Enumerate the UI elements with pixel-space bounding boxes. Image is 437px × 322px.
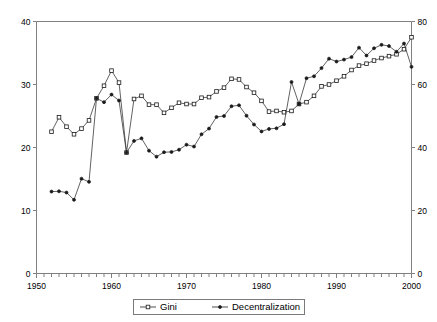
data-point (207, 95, 211, 99)
series-group (50, 35, 414, 201)
data-point (65, 191, 68, 194)
y-tick-label-left: 30 (21, 80, 31, 90)
x-tick-label: 1980 (252, 281, 271, 291)
data-point (73, 198, 76, 201)
data-point (342, 75, 346, 79)
data-point (200, 133, 203, 136)
data-point (290, 80, 293, 83)
data-point (282, 110, 286, 114)
data-point (222, 86, 226, 90)
data-point (230, 77, 234, 81)
data-point (403, 42, 406, 45)
data-point (410, 65, 413, 68)
x-tick-label: 1990 (327, 281, 346, 291)
data-point (80, 177, 83, 180)
data-point (350, 56, 353, 59)
data-point (260, 130, 263, 133)
data-point (410, 35, 414, 39)
legend-marker-filled-diamond (219, 306, 222, 309)
data-point (177, 101, 181, 105)
series-gini (50, 35, 414, 154)
data-point (133, 139, 136, 142)
data-point (275, 127, 278, 130)
data-point (148, 149, 151, 152)
data-point (230, 105, 233, 108)
data-point (50, 190, 53, 193)
data-point (387, 54, 391, 58)
data-point (57, 115, 61, 119)
data-point (215, 115, 218, 118)
data-point (372, 59, 376, 63)
data-point (125, 151, 128, 154)
data-point (208, 127, 211, 130)
y-tick-label-left: 40 (21, 17, 31, 27)
data-point (178, 148, 181, 151)
chart-legend[interactable]: GiniDecentralization (134, 300, 305, 315)
data-point (305, 77, 308, 80)
y-tick-label-right: 60 (418, 80, 428, 90)
data-point (72, 132, 76, 136)
data-point (335, 79, 339, 83)
data-point (163, 151, 166, 154)
chart-container: 0102030400204060801950196019701980199020… (0, 0, 437, 322)
data-point (95, 97, 98, 100)
data-point (87, 119, 91, 123)
data-point (290, 109, 294, 113)
x-tick-label: 1950 (27, 281, 46, 291)
data-point (147, 103, 151, 107)
data-point (140, 137, 143, 140)
legend-marker-open-square (146, 305, 150, 309)
data-point (185, 102, 189, 106)
data-point (268, 127, 271, 130)
data-point (343, 58, 346, 61)
y-tick-label-left: 0 (26, 269, 31, 279)
series-line (52, 37, 412, 152)
data-point (298, 103, 301, 106)
data-point (358, 46, 361, 49)
data-point (365, 62, 369, 66)
y-tick-label-left: 10 (21, 206, 31, 216)
data-point (267, 110, 271, 114)
x-tick-label: 1970 (177, 281, 196, 291)
data-point (395, 50, 398, 53)
data-point (162, 111, 166, 115)
data-point (65, 125, 69, 129)
data-point (117, 81, 121, 85)
data-point (155, 155, 158, 158)
data-point (200, 96, 204, 100)
axis-tick-labels: 0102030400204060801950196019701980199020… (21, 17, 427, 291)
data-point (380, 56, 384, 60)
data-point (192, 102, 196, 106)
y-tick-label-right: 80 (418, 17, 428, 27)
data-point (275, 109, 279, 113)
data-point (327, 83, 331, 87)
data-point (252, 91, 256, 95)
data-point (155, 103, 159, 107)
data-point (245, 85, 249, 89)
data-point (365, 54, 368, 57)
data-point (80, 127, 84, 131)
axes-group (37, 22, 412, 274)
data-point (350, 68, 354, 72)
data-point (320, 67, 323, 70)
y-tick-label-right: 40 (418, 143, 428, 153)
data-point (312, 94, 316, 98)
x-tick-label: 2000 (402, 281, 421, 291)
dual-axis-line-chart: 0102030400204060801950196019701980199020… (0, 0, 437, 322)
legend-label: Gini (160, 301, 177, 312)
data-point (193, 145, 196, 148)
x-tick-label: 1960 (102, 281, 121, 291)
data-point (373, 47, 376, 50)
data-point (185, 143, 188, 146)
data-point (58, 190, 61, 193)
data-point (320, 85, 324, 89)
data-point (110, 69, 114, 73)
data-point (305, 100, 309, 104)
data-point (215, 90, 219, 94)
data-point (283, 123, 286, 126)
legend-label: Decentralization (232, 301, 300, 312)
data-point (170, 106, 174, 110)
data-point (50, 130, 54, 134)
data-point (238, 104, 241, 107)
data-point (388, 45, 391, 48)
